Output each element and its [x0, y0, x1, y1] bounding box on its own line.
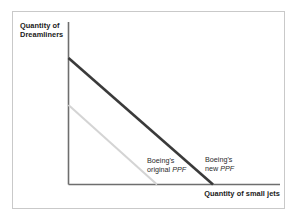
new-ppf-label-prefix: new	[205, 164, 220, 173]
original-ppf-label: Boeing's original PPF	[147, 156, 186, 175]
original-ppf-label-line1: Boeing's	[147, 156, 186, 165]
ppf-figure: Quantity of Dreamliners Quantity of smal…	[0, 0, 295, 221]
original-ppf-label-line2: original PPF	[147, 165, 186, 174]
original-ppf-curve	[69, 105, 158, 185]
y-axis-title: Quantity of Dreamliners	[20, 21, 63, 39]
new-ppf-curve	[69, 58, 214, 185]
new-ppf-label-line2: new PPF	[205, 164, 234, 173]
x-axis-title: Quantity of small jets	[181, 189, 280, 198]
original-ppf-label-prefix: original	[147, 165, 172, 174]
new-ppf-label-line1: Boeing's	[205, 155, 234, 164]
new-ppf-label-abbrev: PPF	[220, 164, 234, 173]
original-ppf-label-abbrev: PPF	[172, 165, 186, 174]
new-ppf-label: Boeing's new PPF	[205, 155, 234, 174]
